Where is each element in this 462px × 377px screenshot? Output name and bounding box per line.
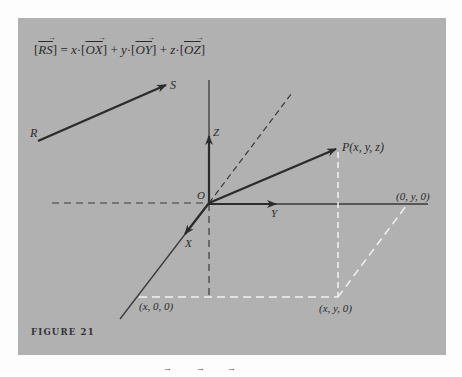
cutoff-arrow-3: →: [227, 363, 236, 373]
label-point-0y0: (0, y, 0): [396, 191, 430, 202]
x-unit-vector: [185, 203, 209, 234]
vector-op: [209, 149, 336, 203]
label-point-x00: (x, 0, 0): [139, 301, 173, 312]
label-y: Y: [271, 208, 277, 219]
eq-lhs: RS: [38, 42, 52, 57]
label-point-xy0: (x, y, 0): [319, 303, 352, 314]
projection-y-line: [338, 206, 406, 297]
label-point-p: P(x, y, z): [342, 141, 384, 153]
figure-caption: FIGURE 21: [31, 327, 95, 337]
label-r: R: [30, 127, 37, 139]
cutoff-arrow-1: →: [163, 363, 172, 373]
label-x: X: [185, 238, 192, 249]
label-z: Z: [213, 127, 219, 138]
label-o: O: [197, 190, 205, 201]
cutoff-arrow-2: →: [196, 363, 205, 373]
vector-equation: [RS] = x·[OX] + y·[OY] + z·[OZ]: [34, 42, 205, 58]
label-s: S: [170, 79, 176, 91]
vector-rs: [38, 85, 166, 141]
